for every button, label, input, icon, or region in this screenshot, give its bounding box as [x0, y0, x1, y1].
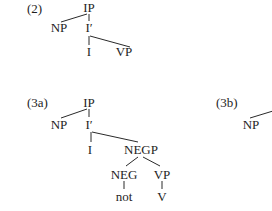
tree-3b: (3b) NP [216, 95, 272, 132]
tree-3b-label: (3b) [216, 95, 238, 110]
tree-3a-node-negp: NEGP [124, 142, 158, 157]
tree-3a-node-v: V [157, 189, 167, 204]
tree-2-node-i-bar: I′ [85, 20, 92, 35]
tree-3b-node-np: NP [243, 117, 260, 132]
tree-3b-edge-root-np [250, 111, 272, 118]
tree-2-node-np: NP [51, 20, 68, 35]
tree-3a-node-ip: IP [83, 95, 95, 110]
tree-3a-node-vp: VP [154, 167, 171, 182]
tree-3a-node-i: I [88, 142, 92, 157]
tree-2-edge-ip-np [61, 14, 87, 22]
tree-3a-node-not: not [116, 189, 133, 204]
tree-3a-node-i-bar: I′ [85, 117, 92, 132]
tree-3a-node-neg: NEG [111, 167, 138, 182]
tree-2-node-i: I [87, 44, 91, 59]
syntax-tree-figure: (2) IP NP I′ I VP (3a) IP NP I′ I NEGP N… [0, 0, 272, 211]
tree-2-node-ip: IP [83, 0, 95, 15]
tree-2: (2) IP NP I′ I VP [27, 0, 132, 59]
tree-3a: (3a) IP NP I′ I NEGP NEG VP not V [27, 95, 170, 204]
tree-3a-node-np: NP [51, 117, 68, 132]
tree-3a-edge-negp-vp [143, 157, 160, 166]
tree-2-edge-ibar-vp [90, 36, 130, 47]
tree-3a-edge-ibar-negp [92, 132, 138, 142]
tree-2-label: (2) [27, 1, 42, 16]
tree-3a-label: (3a) [27, 95, 48, 110]
tree-3a-edge-negp-neg [126, 157, 138, 166]
tree-3a-edge-ip-np [61, 109, 87, 118]
tree-2-node-vp: VP [116, 44, 133, 59]
